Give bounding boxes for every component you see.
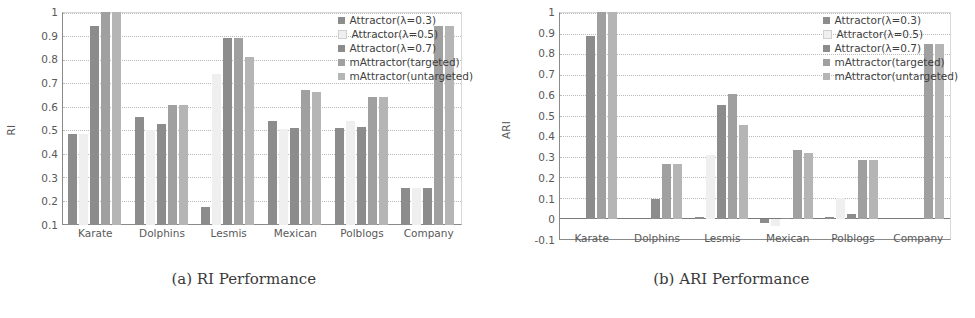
y-axis-tick-label: 0.2 bbox=[538, 172, 555, 184]
y-axis-tick-label: 0.4 bbox=[538, 130, 555, 142]
bar[interactable] bbox=[168, 105, 177, 225]
legend-swatch-icon bbox=[823, 17, 830, 24]
caption-ri: (a) RI Performance bbox=[0, 262, 488, 302]
bar[interactable] bbox=[651, 199, 660, 220]
legend-item[interactable]: Attractor(λ=0.7) bbox=[823, 42, 958, 55]
y-axis-tick-label: 0.9 bbox=[41, 30, 58, 42]
legend-item[interactable]: Attractor(λ=0.5) bbox=[823, 28, 958, 41]
bar[interactable] bbox=[836, 198, 845, 220]
y-axis-label-ari: ARI bbox=[500, 121, 512, 139]
legend-item[interactable]: mAttractor(untargeted) bbox=[823, 70, 958, 83]
x-axis-tick-label: Lesmis bbox=[195, 227, 262, 239]
legend-swatch-icon bbox=[823, 73, 830, 80]
bar[interactable] bbox=[586, 36, 595, 219]
bar[interactable] bbox=[673, 164, 682, 219]
y-axis-tick-label: 0.7 bbox=[41, 77, 58, 89]
bar[interactable] bbox=[357, 127, 366, 225]
bar[interactable] bbox=[706, 155, 715, 219]
y-axis-tick-label: 0.6 bbox=[41, 101, 58, 113]
x-axis-labels-ari: KarateDolphinsLesmisMexicanPolblogsCompa… bbox=[559, 232, 951, 244]
bar[interactable] bbox=[68, 134, 77, 225]
bar[interactable] bbox=[212, 74, 221, 225]
bar[interactable] bbox=[135, 117, 144, 225]
bar[interactable] bbox=[368, 97, 377, 225]
y-axis-tick-label: -0.1 bbox=[535, 234, 556, 246]
bar[interactable] bbox=[804, 153, 813, 219]
bar[interactable] bbox=[290, 128, 299, 225]
y-axis-tick-label: 0.2 bbox=[41, 195, 58, 207]
figure-captions: (a) RI Performance (b) ARI Performance bbox=[0, 262, 975, 302]
bar[interactable] bbox=[234, 38, 243, 225]
x-axis-tick-label: Company bbox=[395, 227, 462, 239]
y-axis-tick-label: 0.5 bbox=[41, 124, 58, 136]
legend-swatch-icon bbox=[338, 59, 345, 66]
legend-swatch-icon bbox=[823, 59, 830, 66]
bar[interactable] bbox=[728, 94, 737, 219]
bar[interactable] bbox=[101, 12, 110, 225]
caption-ari: (b) ARI Performance bbox=[488, 262, 975, 302]
legend-label: Attractor(λ=0.5) bbox=[352, 28, 439, 41]
bar[interactable] bbox=[245, 57, 254, 225]
bar[interactable] bbox=[179, 105, 188, 225]
bar[interactable] bbox=[401, 188, 410, 225]
bar-group bbox=[195, 12, 262, 225]
bar[interactable] bbox=[146, 130, 155, 225]
bar[interactable] bbox=[157, 124, 166, 225]
bar-group bbox=[129, 12, 196, 225]
bar[interactable] bbox=[412, 188, 421, 225]
legend-label: Attractor(λ=0.3) bbox=[835, 14, 922, 27]
bar[interactable] bbox=[346, 121, 355, 225]
y-axis-tick-label: 0.8 bbox=[41, 53, 58, 65]
bar[interactable] bbox=[739, 125, 748, 219]
legend-ari: Attractor(λ=0.3)Attractor(λ=0.5)Attracto… bbox=[823, 14, 958, 83]
bar[interactable] bbox=[662, 164, 671, 219]
legend-item[interactable]: Attractor(λ=0.3) bbox=[338, 14, 473, 27]
bar[interactable] bbox=[90, 26, 99, 225]
y-axis-tick-label: 0.8 bbox=[538, 47, 555, 59]
bar[interactable] bbox=[423, 188, 432, 225]
bar[interactable] bbox=[858, 160, 867, 219]
x-axis-tick-label: Polblogs bbox=[820, 232, 885, 244]
legend-label: Attractor(λ=0.3) bbox=[350, 14, 437, 27]
bar[interactable] bbox=[825, 217, 834, 219]
x-axis-labels-ri: KarateDolphinsLesmisMexicanPolblogsCompa… bbox=[62, 227, 462, 239]
legend-swatch-icon bbox=[338, 73, 345, 80]
legend-ri: Attractor(λ=0.3)Attractor(λ=0.5)Attracto… bbox=[338, 14, 473, 83]
bar[interactable] bbox=[112, 12, 121, 225]
bar[interactable] bbox=[869, 160, 878, 219]
x-axis-tick-label: Polblogs bbox=[329, 227, 396, 239]
y-axis-tick-label: 0.1 bbox=[41, 219, 58, 231]
bar[interactable] bbox=[847, 214, 856, 219]
bar[interactable] bbox=[268, 121, 277, 225]
legend-item[interactable]: Attractor(λ=0.5) bbox=[338, 28, 473, 41]
bar[interactable] bbox=[79, 134, 88, 225]
bar[interactable] bbox=[335, 128, 344, 225]
legend-item[interactable]: Attractor(λ=0.3) bbox=[823, 14, 958, 27]
bar[interactable] bbox=[782, 218, 791, 219]
bar[interactable] bbox=[279, 129, 288, 225]
y-axis-label-ri: RI bbox=[5, 125, 17, 136]
legend-item[interactable]: mAttractor(untargeted) bbox=[338, 70, 473, 83]
bar[interactable] bbox=[379, 97, 388, 225]
bar[interactable] bbox=[201, 207, 210, 225]
x-axis-tick-label: Karate bbox=[62, 227, 129, 239]
bar[interactable] bbox=[597, 12, 606, 219]
legend-swatch-icon bbox=[338, 30, 347, 39]
bar[interactable] bbox=[760, 219, 769, 223]
legend-item[interactable]: mAttractor(targeted) bbox=[338, 56, 473, 69]
legend-swatch-icon bbox=[823, 45, 830, 52]
legend-label: mAttractor(targeted) bbox=[350, 56, 460, 69]
bar[interactable] bbox=[717, 105, 726, 219]
bar[interactable] bbox=[608, 12, 617, 219]
bar[interactable] bbox=[312, 92, 321, 225]
bar[interactable] bbox=[793, 150, 802, 219]
bar[interactable] bbox=[771, 219, 780, 225]
bar[interactable] bbox=[695, 217, 704, 219]
legend-swatch-icon bbox=[338, 45, 345, 52]
legend-item[interactable]: mAttractor(targeted) bbox=[823, 56, 958, 69]
y-axis-tick-label: 0.7 bbox=[538, 68, 555, 80]
legend-item[interactable]: Attractor(λ=0.7) bbox=[338, 42, 473, 55]
bar[interactable] bbox=[223, 38, 232, 225]
bar-group bbox=[62, 12, 129, 225]
bar[interactable] bbox=[301, 90, 310, 225]
